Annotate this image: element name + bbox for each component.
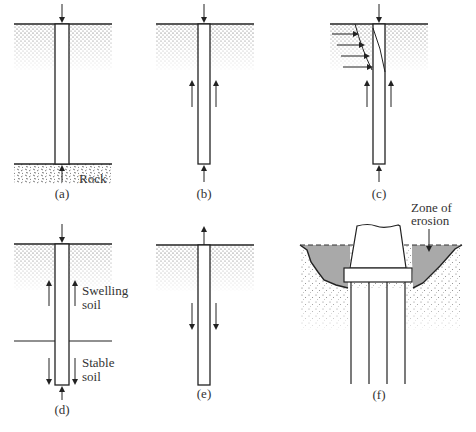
erosion-label-line2: erosion: [411, 214, 449, 228]
panel-label-e: (e): [184, 386, 224, 402]
swelling-soil-label-line1: Swelling: [82, 284, 128, 298]
panel-label-a: (a): [42, 186, 82, 202]
stable-soil-label-line2: soil: [82, 370, 101, 384]
panel-a: [14, 4, 112, 184]
panel-label-b: (b): [184, 186, 224, 202]
panel-label-f: (f): [359, 387, 399, 403]
panel-c: [330, 4, 428, 182]
panel-label-d: (d): [42, 402, 82, 418]
panel-label-c: (c): [359, 186, 399, 202]
panel-e: [156, 229, 254, 385]
panel-f: [300, 225, 462, 385]
rock-label: Rock: [79, 172, 106, 186]
swelling-soil-label-line2: soil: [82, 298, 101, 312]
stable-soil-label-line1: Stable: [82, 356, 115, 370]
pile-diagram-canvas: [0, 0, 476, 432]
panel-b: [156, 4, 254, 182]
